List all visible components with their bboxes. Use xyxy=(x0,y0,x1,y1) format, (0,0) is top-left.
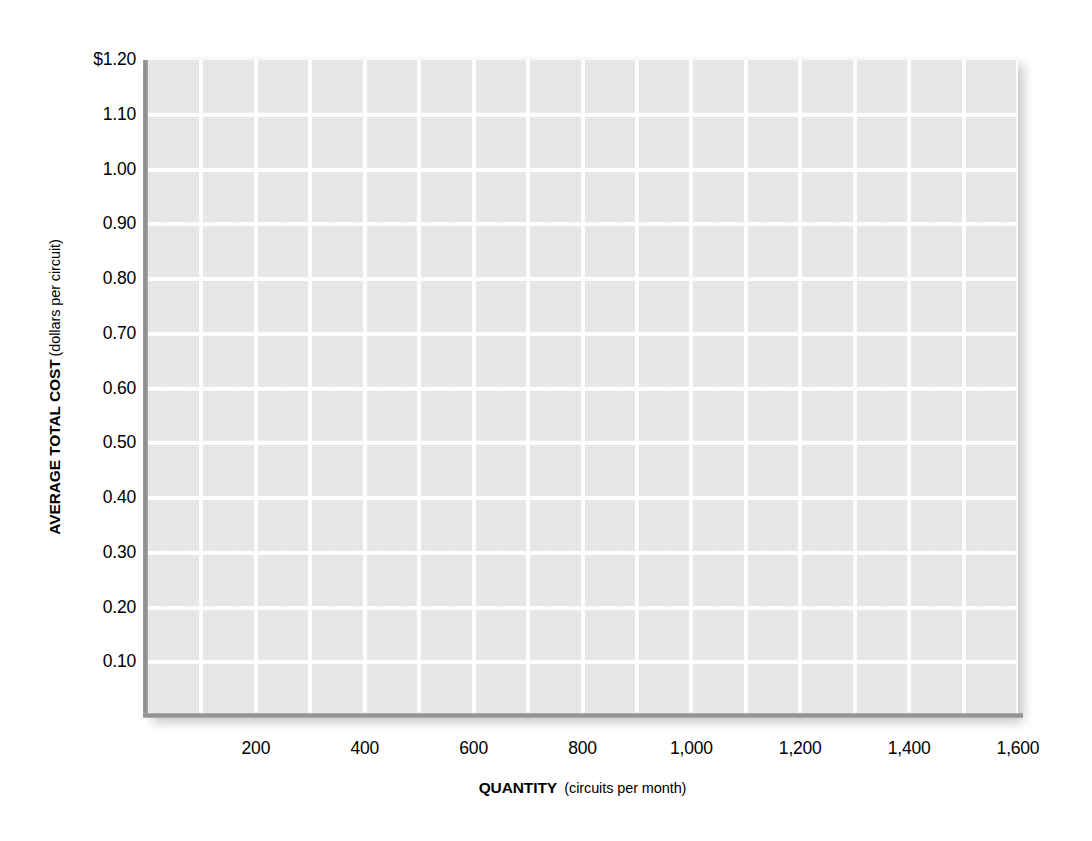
plot-area[interactable] xyxy=(147,60,1018,717)
y-axis-spine xyxy=(143,60,148,718)
horizontal-gridline xyxy=(147,441,1018,445)
x-axis-title-main: QUANTITY xyxy=(479,779,557,796)
x-axis-tick-label: 400 xyxy=(310,740,420,758)
x-axis-title: QUANTITY (circuits per month) xyxy=(147,779,1018,797)
horizontal-gridline xyxy=(147,606,1018,610)
y-axis-tick-label: 0.40 xyxy=(58,489,136,507)
y-axis-tick-label: 0.10 xyxy=(58,654,136,672)
x-axis-tick-label: 1,400 xyxy=(854,740,964,758)
y-axis-tick-label: 0.20 xyxy=(58,599,136,617)
horizontal-gridline xyxy=(147,222,1018,226)
horizontal-gridline xyxy=(147,277,1018,281)
y-axis-tick-label: 0.80 xyxy=(58,270,136,288)
horizontal-gridline xyxy=(147,387,1018,391)
y-axis-tick-label: $1.20 xyxy=(58,51,136,69)
chart-figure: AVERAGE TOTAL COST (dollars per circuit)… xyxy=(0,0,1092,841)
horizontal-gridline xyxy=(147,332,1018,336)
y-axis-tick-label: 1.10 xyxy=(58,106,136,124)
x-axis-tick-labels: 2004006008001,0001,2001,4001,600 xyxy=(0,740,1092,766)
x-axis-title-note: (circuits per month) xyxy=(564,780,686,796)
y-axis-tick-label: 0.70 xyxy=(58,325,136,343)
x-axis-tick-label: 200 xyxy=(201,740,311,758)
y-axis-tick-label: 0.60 xyxy=(58,380,136,398)
x-axis-tick-label: 1,000 xyxy=(636,740,746,758)
y-axis-tick-labels: $1.201.101.000.900.800.700.600.500.400.3… xyxy=(58,0,136,841)
y-axis-tick-label: 0.90 xyxy=(58,216,136,234)
x-axis-spine xyxy=(143,713,1023,718)
horizontal-gridline xyxy=(147,660,1018,664)
horizontal-gridline xyxy=(147,168,1018,172)
horizontal-gridline xyxy=(147,113,1018,117)
x-axis-tick-label: 800 xyxy=(528,740,638,758)
x-axis-tick-label: 1,600 xyxy=(963,740,1073,758)
y-axis-tick-label: 1.00 xyxy=(58,161,136,179)
x-axis-tick-label: 1,200 xyxy=(745,740,855,758)
horizontal-gridline xyxy=(147,496,1018,500)
y-axis-tick-label: 0.50 xyxy=(58,435,136,453)
horizontal-gridline xyxy=(147,551,1018,555)
x-axis-tick-label: 600 xyxy=(419,740,529,758)
y-axis-tick-label: 0.30 xyxy=(58,544,136,562)
